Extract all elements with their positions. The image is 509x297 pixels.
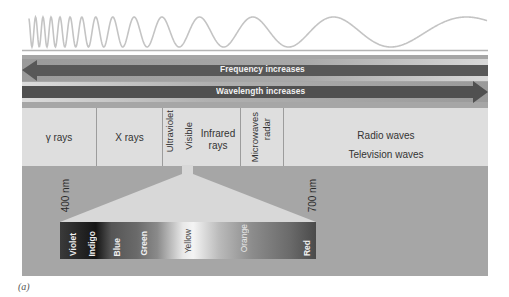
color-orange: Orange: [239, 224, 249, 252]
figure-caption: (a): [18, 281, 30, 292]
color-violet: Violet: [68, 233, 78, 256]
region-ultraviolet: Ultraviolet: [164, 110, 175, 152]
region-infrared: Infrared rays: [196, 128, 240, 152]
infrared-line2: rays: [196, 140, 240, 152]
color-indigo: Indigo: [87, 231, 97, 257]
color-blue: Blue: [112, 238, 122, 256]
color-red: Red: [302, 240, 312, 256]
label-400nm: 400 nm: [60, 179, 71, 212]
region-visible: Visible: [183, 122, 194, 150]
divider: [240, 108, 241, 166]
color-green: Green: [139, 231, 149, 256]
divider: [162, 108, 163, 166]
wavelength-label: Wavelength increases: [216, 85, 305, 96]
region-radio-waves: Radio waves: [284, 126, 488, 145]
region-television-waves: Television waves: [284, 145, 488, 164]
color-yellow: Yellow: [183, 229, 193, 253]
visible-expansion-triangle: [0, 165, 509, 225]
visible-spectrum-bar: Violet Indigo Blue Green Yellow Orange R…: [60, 222, 316, 259]
wave-illustration: [0, 0, 509, 56]
infrared-line1: Infrared: [196, 128, 240, 140]
region-x-rays: X rays: [97, 132, 162, 144]
region-microwaves: Microwaves: [249, 112, 260, 162]
frequency-label: Frequency increases: [220, 63, 305, 74]
region-gamma-rays: γ rays: [22, 132, 96, 144]
label-700nm: 700 nm: [307, 179, 318, 212]
region-radar: radar: [261, 118, 272, 140]
region-radio-tv: Radio waves Television waves: [284, 126, 488, 164]
wave-curve: [29, 17, 487, 47]
